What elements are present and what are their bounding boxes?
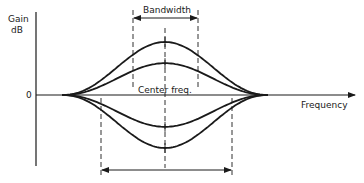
y-axis-zero-label: 0 (26, 90, 32, 100)
x-axis-label: Frequency (301, 100, 348, 110)
center-frequency-label: Center freq. (138, 85, 192, 95)
y-axis-label-gain: Gain (8, 14, 29, 24)
eq-bandwidth-diagram: Gain dB 0 Frequency Center freq. Bandwid… (0, 0, 364, 183)
y-axis-label-db: dB (11, 25, 23, 35)
top-bandwidth-label: Bandwidth (143, 5, 191, 15)
